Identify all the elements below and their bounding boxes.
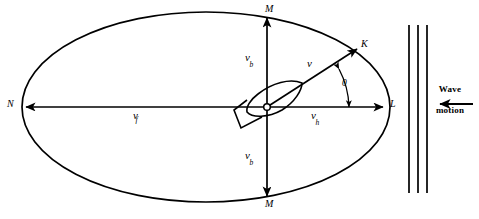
- origin-marker-circle: [264, 104, 271, 111]
- vector-label-v-h: vh: [311, 110, 320, 124]
- vector-label-v-f: vf: [133, 110, 140, 121]
- point-label-K: K: [361, 39, 368, 49]
- wave-motion-line1: Wave: [422, 84, 478, 94]
- figure-canvas: [0, 0, 479, 219]
- point-label-M-top: M: [265, 4, 273, 14]
- wave-motion-caption: Wave motion: [422, 84, 478, 115]
- wave-orbital-velocity-figure: M M N L K vb vb vf vh v 0 Wave motion: [0, 0, 479, 219]
- vessel-hull-body: [247, 81, 302, 116]
- vector-label-v-resultant: v: [307, 58, 312, 69]
- wave-motion-line2: motion: [422, 105, 478, 115]
- point-label-N: N: [7, 99, 14, 109]
- point-label-M-bottom: M: [265, 199, 273, 209]
- point-label-L: L: [390, 99, 396, 109]
- vector-label-v-b-upper: vb: [245, 52, 254, 66]
- angle-theta-label: 0: [342, 79, 347, 89]
- vector-label-v-b-lower: vb: [245, 150, 254, 164]
